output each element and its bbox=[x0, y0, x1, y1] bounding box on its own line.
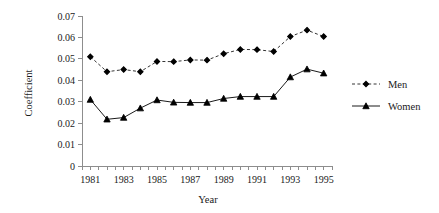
legend-label: Men bbox=[388, 79, 408, 90]
y-tick-label: 0.01 bbox=[58, 139, 76, 150]
data-point-marker bbox=[104, 69, 109, 74]
x-axis-tick-labels: 19811983198519871989199119931995 bbox=[80, 174, 333, 185]
data-point-marker bbox=[304, 28, 309, 33]
series-women bbox=[87, 66, 327, 122]
data-point-marker bbox=[137, 105, 143, 111]
legend-entry-women: Women bbox=[352, 101, 421, 112]
legend-entry-men: Men bbox=[352, 79, 408, 90]
data-series-layer bbox=[87, 28, 327, 122]
data-point-marker bbox=[221, 51, 226, 56]
data-point-marker bbox=[138, 69, 143, 74]
x-tick-label: 1993 bbox=[280, 174, 300, 185]
plot-area: 00.010.020.030.040.050.060.07 1981198319… bbox=[58, 11, 334, 186]
line-chart: 00.010.020.030.040.050.060.07 1981198319… bbox=[0, 0, 439, 213]
x-tick-label: 1981 bbox=[80, 174, 100, 185]
data-point-marker bbox=[171, 59, 176, 64]
x-axis-title: Year bbox=[198, 194, 218, 205]
y-tick-label: 0.07 bbox=[58, 11, 76, 22]
x-tick-label: 1991 bbox=[247, 174, 267, 185]
data-point-marker bbox=[304, 66, 310, 72]
x-tick-label: 1989 bbox=[214, 174, 234, 185]
y-tick-label: 0.02 bbox=[58, 118, 76, 129]
data-point-marker bbox=[238, 47, 243, 52]
data-point-marker bbox=[204, 58, 209, 63]
y-tick-label: 0.03 bbox=[58, 96, 76, 107]
chart-axes bbox=[82, 16, 332, 166]
data-point-marker bbox=[120, 114, 126, 120]
y-tick-label: 0.04 bbox=[58, 75, 76, 86]
y-axis-title: Coefficient bbox=[23, 69, 34, 116]
data-point-marker bbox=[254, 47, 259, 52]
legend-label: Women bbox=[388, 101, 421, 112]
chart-legend: MenWomen bbox=[352, 79, 421, 112]
y-tick-label: 0.06 bbox=[58, 32, 76, 43]
x-axis-ticks bbox=[82, 166, 332, 170]
x-tick-label: 1995 bbox=[314, 174, 334, 185]
y-tick-label: 0.05 bbox=[58, 53, 76, 64]
data-point-marker bbox=[287, 74, 293, 80]
data-point-marker bbox=[154, 59, 159, 64]
y-tick-label: 0 bbox=[70, 161, 75, 172]
data-point-marker bbox=[121, 67, 126, 72]
data-point-marker bbox=[188, 57, 193, 62]
chart-figure: 00.010.020.030.040.050.060.07 1981198319… bbox=[0, 0, 439, 213]
x-tick-label: 1983 bbox=[114, 174, 134, 185]
data-point-marker bbox=[288, 34, 293, 39]
data-point-marker bbox=[321, 34, 326, 39]
y-axis-tick-labels: 00.010.020.030.040.050.060.07 bbox=[58, 11, 76, 172]
x-tick-label: 1985 bbox=[147, 174, 167, 185]
series-men bbox=[88, 28, 327, 75]
data-point-marker bbox=[87, 96, 93, 102]
data-point-marker bbox=[154, 97, 160, 103]
x-tick-label: 1987 bbox=[180, 174, 200, 185]
legend-marker-diamond-icon bbox=[363, 81, 368, 86]
y-axis-ticks bbox=[78, 16, 82, 166]
